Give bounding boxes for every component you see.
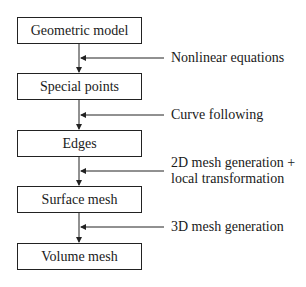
node-edges: Edges xyxy=(17,130,142,157)
node-label: Surface mesh xyxy=(42,192,118,208)
edge-label-curve-following: Curve following xyxy=(171,107,263,123)
node-surface-mesh: Surface mesh xyxy=(17,186,142,213)
node-label: Special points xyxy=(40,79,119,95)
node-volume-mesh: Volume mesh xyxy=(17,243,142,270)
edge-label-text: 2D mesh generation + xyxy=(171,155,295,171)
edge-label-text: 3D mesh generation xyxy=(171,219,284,234)
edge-label-text: Nonlinear equations xyxy=(171,50,284,65)
node-label: Geometric model xyxy=(31,23,129,39)
node-geometric-model: Geometric model xyxy=(17,17,142,44)
edge-label-2d-mesh-generation: 2D mesh generation + local transformatio… xyxy=(171,155,295,187)
node-special-points: Special points xyxy=(17,73,142,100)
edge-label-text: local transformation xyxy=(171,171,295,187)
edge-label-nonlinear-equations: Nonlinear equations xyxy=(171,50,284,66)
node-label: Volume mesh xyxy=(41,249,117,265)
edge-label-3d-mesh-generation: 3D mesh generation xyxy=(171,219,284,235)
edge-label-text: Curve following xyxy=(171,107,263,122)
node-label: Edges xyxy=(62,136,96,152)
